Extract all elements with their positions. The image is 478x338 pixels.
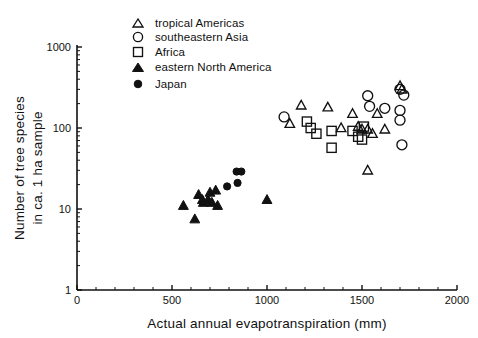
open-circle-icon: [133, 32, 142, 41]
data-point: [395, 115, 405, 125]
data-point: [234, 179, 241, 186]
x-tick-label: 0: [74, 294, 80, 306]
y-tick-label: 1: [65, 284, 71, 296]
series-eastern-north-america: [178, 185, 271, 223]
y-tick-label: 100: [53, 122, 71, 134]
series-tropical-americas: [285, 81, 407, 174]
data-point: [348, 126, 357, 135]
filled-circle-icon: [134, 80, 142, 88]
legend-item-southeastern-asia: southeastern Asia: [133, 31, 248, 43]
filled-triangle-icon: [133, 63, 144, 72]
x-tick-label: 1500: [350, 294, 374, 306]
series-japan: [224, 168, 245, 190]
data-point: [296, 100, 306, 109]
series-southeastern-asia: [279, 84, 409, 149]
legend-item-tropical-americas: tropical Americas: [133, 17, 244, 29]
data-point: [302, 117, 311, 126]
plot-canvas: tropical Americas southeastern Asia Afri…: [0, 0, 478, 338]
x-axis-title: Actual annual evapotranspiration (mm): [147, 316, 386, 331]
data-point: [327, 126, 336, 135]
data-point: [357, 135, 366, 144]
x-tick-label: 2000: [445, 294, 469, 306]
axis-tick-labels: 05001000150020001101001000: [47, 41, 470, 306]
data-point: [190, 214, 200, 223]
data-point: [363, 91, 373, 101]
legend-item-japan: Japan: [134, 78, 187, 90]
data-point: [380, 103, 390, 113]
scatter-plot-figure: tropical Americas southeastern Asia Afri…: [0, 0, 478, 338]
data-points-layer: [178, 81, 408, 223]
data-point: [323, 102, 333, 111]
data-point: [285, 119, 295, 128]
legend-item-africa: Africa: [134, 46, 186, 58]
y-tick-label: 10: [59, 203, 71, 215]
legend-label: Africa: [155, 46, 185, 58]
data-point: [397, 140, 407, 150]
data-point: [312, 129, 321, 138]
legend-item-eastern-north-america: eastern North America: [133, 61, 273, 73]
data-point: [262, 195, 272, 204]
data-point: [178, 200, 188, 209]
open-square-icon: [134, 48, 143, 57]
open-triangle-icon: [133, 19, 143, 27]
legend-label: tropical Americas: [155, 17, 244, 29]
data-point: [279, 112, 289, 122]
legend-label: Japan: [155, 78, 187, 90]
legend: tropical Americas southeastern Asia Afri…: [133, 17, 273, 90]
data-point: [224, 183, 231, 190]
data-point: [211, 185, 221, 194]
data-point: [306, 123, 315, 132]
data-point: [327, 143, 336, 152]
data-point: [365, 101, 375, 111]
y-axis-title-line2: in ca. 1 ha sample: [30, 111, 45, 224]
data-point: [348, 109, 358, 118]
data-point: [238, 168, 245, 175]
y-tick-label: 1000: [47, 41, 71, 53]
legend-label: eastern North America: [155, 61, 272, 73]
legend-label: southeastern Asia: [155, 31, 249, 43]
data-point: [380, 124, 390, 133]
x-tick-label: 1000: [255, 294, 279, 306]
x-tick-label: 500: [163, 294, 181, 306]
data-point: [336, 123, 346, 132]
data-point: [395, 105, 405, 115]
y-axis-title-line1: Number of tree species: [12, 96, 27, 240]
data-point: [363, 165, 373, 174]
